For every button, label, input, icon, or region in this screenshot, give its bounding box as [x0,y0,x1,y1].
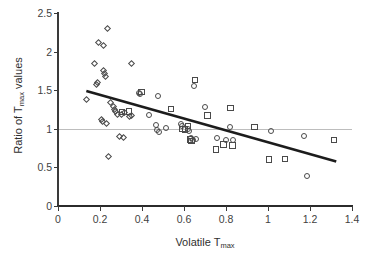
y-axis-title-part2: values [12,57,24,92]
data-point-square [266,156,273,163]
data-point-circle [227,124,233,130]
data-point-square [126,108,133,115]
y-tick-label: 0.5 [37,162,52,173]
data-point-circle [146,112,152,118]
y-tick-label: 2.5 [37,8,52,19]
x-tick-mark [226,206,227,211]
y-tick-label: 0 [46,201,52,212]
data-point-square [229,142,236,149]
x-tick-label: 0.8 [219,214,234,225]
scatter-chart-figure: 00.511.522.5 00.20.40.60.811.21.4 Volati… [0,0,378,262]
data-point-square [192,77,199,84]
data-point-square [282,156,289,163]
x-axis-title: Volatile Tmax [58,237,352,248]
plot-area: 00.511.522.5 00.20.40.60.811.21.4 [58,13,352,206]
y-tick-label: 1 [46,124,52,135]
x-axis-title-base: Volatile T [175,236,220,248]
x-tick-label: 0.2 [93,214,108,225]
x-tick-label: 1.2 [303,214,318,225]
data-point-square [227,105,234,112]
data-point-square [119,109,126,116]
data-point-square [188,138,195,145]
y-tick-label: 2 [46,46,52,57]
data-point-square [213,146,220,153]
y-tick-mark [54,52,59,53]
x-tick-mark [268,206,269,211]
x-tick-label: 1 [265,214,271,225]
x-tick-mark [352,206,353,211]
x-tick-label: 0.6 [177,214,192,225]
x-tick-label: 1.4 [345,214,360,225]
data-point-square [168,106,175,113]
y-axis-title-subscript: max [17,92,26,106]
y-tick-mark [54,13,59,14]
data-point-square [138,89,145,96]
x-tick-mark [100,206,101,211]
data-point-square [204,112,211,119]
x-tick-label: 0.4 [135,214,150,225]
data-point-circle [163,125,169,131]
x-tick-label: 0 [55,214,61,225]
x-tick-mark [310,206,311,211]
y-tick-label: 1.5 [37,85,52,96]
y-tick-mark [54,90,59,91]
y-tick-mark [54,167,59,168]
data-point-square [185,123,192,130]
x-tick-mark [58,206,59,211]
y-axis-title: Ratio of Tmax values [13,26,24,186]
data-point-circle [268,128,274,134]
x-axis-title-subscript: max [220,241,234,250]
x-tick-mark [184,206,185,211]
data-point-square [251,124,258,131]
y-axis-title-part1: Ratio of T [12,106,24,154]
data-point-square [331,137,338,144]
x-tick-mark [142,206,143,211]
y-tick-mark [54,129,59,130]
data-point-square [220,141,227,148]
